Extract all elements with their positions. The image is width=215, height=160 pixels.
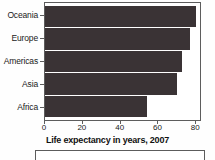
bar-row [45,96,200,118]
bar-row [45,51,200,73]
y-axis-label-oceania: Oceania [7,11,38,20]
bar-americas [45,51,182,73]
y-axis-tick-americas: Americas [0,51,44,73]
plot-area [45,3,200,120]
bar-asia [45,73,177,95]
x-tick-label-20: 20 [77,124,86,132]
second-chart-panel [35,150,205,160]
y-axis-label-asia: Asia [22,80,38,89]
y-axis-label-africa: Africa [17,103,38,112]
x-tick-label-60: 60 [153,124,162,132]
bar-row [45,73,200,95]
bar-africa [45,96,147,118]
bar-oceania [45,6,196,28]
bar-chart-panel [44,2,201,121]
y-axis-tick-oceania: Oceania [0,5,44,27]
y-axis-tick-africa: Africa [0,97,44,119]
x-tick-label-40: 40 [115,124,124,132]
bar-row [45,28,200,50]
x-tick-label-0: 0 [42,124,46,132]
x-axis-title: Life expectancy in years, 2007 [0,136,215,145]
y-axis-label-americas: Americas [4,57,38,66]
y-axis-tick-asia: Asia [0,74,44,96]
bar-europe [45,28,190,50]
y-axis-label-europe: Europe [11,34,38,43]
y-axis-labels: Oceania Europe Americas Asia Africa [0,2,44,121]
bar-row [45,6,200,28]
figure-container: Oceania Europe Americas Asia Africa [0,0,215,160]
x-tick-label-80: 80 [191,124,200,132]
y-axis-tick-europe: Europe [0,28,44,50]
